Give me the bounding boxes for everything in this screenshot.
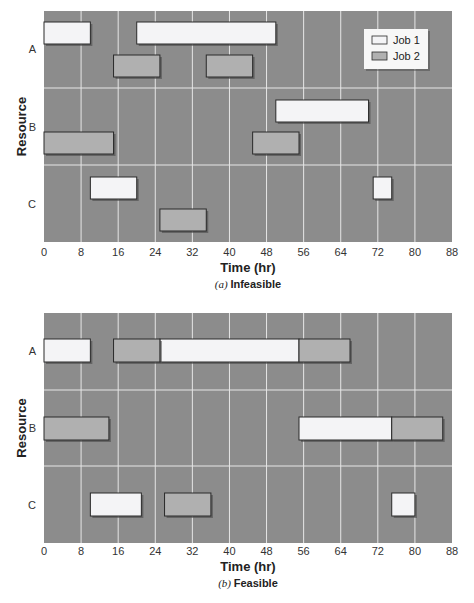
x-tick-label: 40 xyxy=(223,545,235,557)
job1-bar xyxy=(137,22,276,44)
y-axis-title: Resource xyxy=(14,398,29,457)
resource-label: A xyxy=(29,345,37,357)
x-tick-label: 88 xyxy=(446,545,458,557)
x-tick-label: 24 xyxy=(149,246,161,258)
x-tick-label: 8 xyxy=(78,545,84,557)
job1-bar xyxy=(90,493,141,516)
job2-bar xyxy=(253,132,299,154)
x-tick-label: 64 xyxy=(335,545,347,557)
x-tick-label: 64 xyxy=(335,246,347,258)
legend-label: Job 2 xyxy=(393,50,420,62)
job2-bar xyxy=(165,493,211,516)
x-tick-label: 16 xyxy=(112,545,124,557)
x-tick-label: 32 xyxy=(186,545,198,557)
x-tick-label: 0 xyxy=(41,246,47,258)
job2-bar xyxy=(114,339,160,362)
x-tick-label: 8 xyxy=(78,246,84,258)
resource-label: C xyxy=(28,198,36,210)
x-tick-label: 80 xyxy=(409,545,421,557)
x-tick-label: 72 xyxy=(372,545,384,557)
y-axis-title: Resource xyxy=(14,97,29,156)
legend: Job 1Job 2 xyxy=(364,29,430,71)
x-tick-label: 56 xyxy=(298,246,310,258)
x-tick-label: 24 xyxy=(149,545,161,557)
x-tick-label: 88 xyxy=(446,246,458,258)
x-tick-label: 72 xyxy=(372,246,384,258)
x-tick-label: 40 xyxy=(223,246,235,258)
gantt-chart-infeasible: ABCResource0816243240485664728088Time (h… xyxy=(14,11,458,291)
x-axis-title: Time (hr) xyxy=(220,260,275,275)
job1-bar xyxy=(373,177,392,199)
x-tick-label: 32 xyxy=(186,246,198,258)
x-tick-label: 80 xyxy=(409,246,421,258)
gantt-figure: ABCResource0816243240485664728088Time (h… xyxy=(0,0,474,603)
job2-bar xyxy=(392,417,443,440)
job1-bar xyxy=(44,22,90,44)
legend-swatch xyxy=(372,36,387,44)
job1-bar xyxy=(44,339,90,362)
x-tick-label: 56 xyxy=(298,545,310,557)
legend-swatch xyxy=(372,52,387,60)
job2-bar xyxy=(160,209,206,231)
x-tick-label: 48 xyxy=(260,545,272,557)
resource-label: B xyxy=(29,422,36,434)
job1-bar xyxy=(160,339,299,362)
x-axis-title: Time (hr) xyxy=(220,559,275,574)
resource-label: A xyxy=(29,43,37,55)
job1-bar xyxy=(392,493,415,516)
job1-bar xyxy=(276,100,369,122)
chart-caption: (a) Infeasible xyxy=(215,278,281,291)
x-tick-label: 0 xyxy=(41,545,47,557)
job2-bar xyxy=(114,55,160,77)
legend-label: Job 1 xyxy=(393,34,420,46)
resource-label: C xyxy=(28,499,36,511)
job1-bar xyxy=(90,177,136,199)
job2-bar xyxy=(299,339,350,362)
gantt-chart-feasible: ABCResource0816243240485664728088Time (h… xyxy=(14,313,458,590)
job2-bar xyxy=(44,132,114,154)
job2-bar xyxy=(206,55,252,77)
x-tick-label: 48 xyxy=(260,246,272,258)
job2-bar xyxy=(44,417,109,440)
job1-bar xyxy=(299,417,392,440)
x-tick-label: 16 xyxy=(112,246,124,258)
resource-label: B xyxy=(29,121,36,133)
chart-caption: (b) Feasible xyxy=(218,577,278,590)
